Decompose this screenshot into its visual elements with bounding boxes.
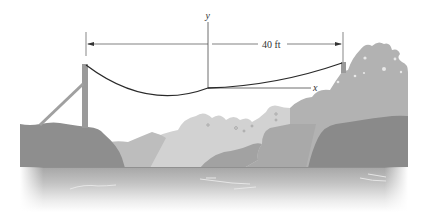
span-dimension: 40 ft [86, 32, 343, 62]
span-label: 40 ft [262, 39, 281, 50]
y-axis-label: y [205, 10, 211, 21]
bridge-cable-diagram: y x 40 ft [0, 0, 430, 217]
x-axis-label: x [312, 82, 318, 93]
left-tower [40, 64, 88, 128]
arrowhead-right-icon [335, 42, 342, 46]
tower-strut [40, 84, 83, 125]
water [20, 167, 408, 217]
terrain [20, 42, 408, 168]
arrowhead-left-icon [87, 42, 94, 46]
axes: y x [205, 10, 319, 93]
tower-post [82, 64, 88, 128]
left-bank [20, 123, 125, 169]
suspension-cable [86, 63, 342, 96]
